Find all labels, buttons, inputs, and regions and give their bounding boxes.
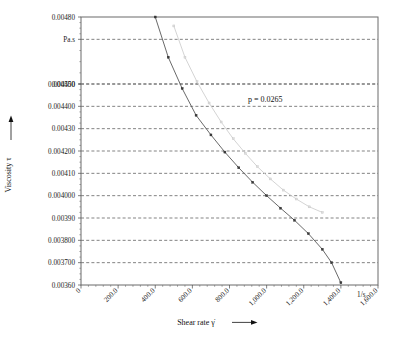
- series-markers-up-ramp: [173, 25, 324, 213]
- y-axis-tick-label: 0.003700: [48, 259, 75, 267]
- y-axis-tick-label: 0.004000: [48, 192, 75, 200]
- data-point-marker: [256, 166, 258, 168]
- x-axis-tick-label: 0: [74, 286, 82, 294]
- y-axis-tick-label: 0.003800: [48, 237, 75, 245]
- data-point-marker: [321, 211, 323, 213]
- viscosity-shear-rate-chart: 0.00480Pa.s0.0045000.004500.0044000.0043…: [0, 0, 409, 338]
- data-point-marker: [232, 138, 234, 140]
- data-point-marker: [208, 102, 210, 104]
- y-axis-tick-label: 0.00410: [52, 170, 76, 178]
- y-axis-tick-label: 0.00480: [52, 14, 76, 22]
- y-axis-tick-label: 0.004200: [48, 148, 75, 156]
- data-point-marker: [173, 25, 175, 27]
- data-point-marker: [195, 114, 197, 116]
- x-axis-tick-label: 1,000.0: [247, 286, 268, 307]
- y-axis-tick-label: 0.00430: [52, 125, 76, 133]
- x-axis-arrow-head: [251, 320, 258, 325]
- x-axis-title: Shear rate γ̇: [177, 318, 216, 327]
- data-point-marker: [295, 198, 297, 200]
- data-point-marker: [280, 207, 282, 209]
- x-axis-tick-label: 1,400.0: [321, 286, 342, 307]
- data-point-marker: [293, 219, 295, 221]
- x-axis-tick-label: 600.0: [177, 286, 194, 303]
- annotations-layer: p = 0.0265: [248, 95, 283, 104]
- series-line-up-ramp: [174, 26, 323, 212]
- tickmarks-layer: [78, 17, 378, 289]
- data-point-marker: [308, 206, 310, 208]
- x-axis-unit-label: 1/s: [357, 291, 366, 299]
- x-axis-tick-label: 1,200.0: [284, 286, 305, 307]
- data-point-marker: [340, 282, 342, 284]
- data-point-marker: [220, 121, 222, 123]
- axis-labels-layer: 0.00480Pa.s0.0045000.004500.0044000.0043…: [48, 14, 380, 308]
- data-point-marker: [331, 262, 333, 264]
- y-axis-arrow-head: [9, 116, 14, 123]
- data-point-marker: [307, 233, 309, 235]
- y-axis-tick-label: 0.00360: [52, 282, 76, 290]
- data-point-marker: [321, 248, 323, 250]
- data-point-marker: [238, 167, 240, 169]
- gridlines-layer: [81, 39, 378, 262]
- data-point-marker: [196, 81, 198, 83]
- y-axis-tick-label: 0.00450: [52, 81, 76, 89]
- data-point-marker: [266, 195, 268, 197]
- chart-container: 0.00480Pa.s0.0045000.004500.0044000.0043…: [0, 0, 409, 338]
- x-axis-tick-label: 200.0: [102, 286, 119, 303]
- data-point-marker: [282, 189, 284, 191]
- y-axis-tick-label: 0.00390: [52, 215, 76, 223]
- data-point-marker: [184, 56, 186, 58]
- annotation-label: p = 0.0265: [248, 95, 283, 104]
- series-layer: [154, 16, 342, 284]
- data-point-marker: [269, 178, 271, 180]
- x-axis-tick-label: 800.0: [214, 286, 231, 303]
- x-axis-tick-label: 400.0: [140, 286, 157, 303]
- y-axis-title: Viscosity τ: [4, 157, 13, 193]
- data-point-marker: [252, 181, 254, 183]
- y-axis-tick-label: 0.004400: [48, 103, 75, 111]
- data-point-marker: [244, 152, 246, 154]
- data-point-marker: [154, 16, 156, 18]
- data-point-marker: [167, 56, 169, 58]
- data-point-marker: [181, 87, 183, 89]
- data-point-marker: [210, 134, 212, 136]
- series-markers-down-ramp: [154, 16, 342, 284]
- y-axis-unit-label: Pa.s: [63, 36, 75, 44]
- data-point-marker: [224, 151, 226, 153]
- series-line-down-ramp: [155, 17, 341, 283]
